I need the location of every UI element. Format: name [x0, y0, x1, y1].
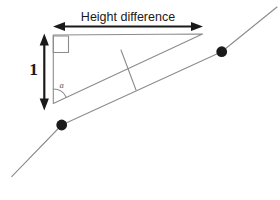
point-marker-upper: [216, 46, 227, 57]
diagram-canvas: Height difference 1 a: [0, 0, 280, 200]
unit-rise-label: 1: [29, 59, 38, 79]
angle-label: a: [59, 80, 63, 90]
slope-diagram: Height difference 1 a: [0, 0, 280, 200]
height-difference-label: Height difference: [81, 10, 175, 24]
point-marker-lower: [56, 120, 67, 131]
